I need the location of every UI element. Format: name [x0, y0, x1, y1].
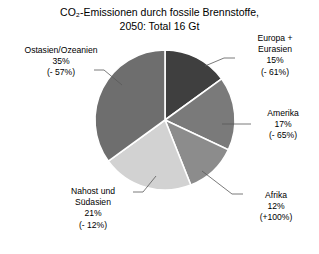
pie-label-afrika: Afrika 12% (+100%)	[240, 190, 312, 224]
leader-line-europa	[205, 58, 235, 66]
pie-label-ostasien-ozeanien: Ostasien/Ozeanien 35% (- 57%)	[4, 45, 118, 79]
pie-label-amerika: Amerika 17% (- 65%)	[252, 108, 314, 142]
pie-label-europa-eurasien: Europa + Eurasien 15% (- 61%)	[236, 33, 314, 78]
pie-chart-figure: CO₂-Emissionen durch fossile Brennstoffe…	[0, 0, 319, 254]
pie-label-nahost-suedasien: Nahost und Südasien 21% (- 12%)	[44, 186, 142, 231]
